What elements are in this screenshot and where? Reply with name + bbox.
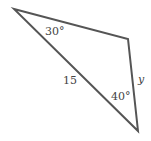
triangle <box>14 9 138 131</box>
angle-c-label: 40° <box>111 90 131 103</box>
side-ac-label: 15 <box>63 74 77 87</box>
side-bc-label: y <box>137 73 145 86</box>
triangle-diagram: 30° 15 40° y <box>0 0 151 141</box>
angle-a-label: 30° <box>45 25 65 38</box>
